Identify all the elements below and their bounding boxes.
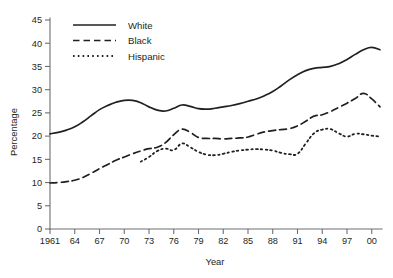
- chart-axes: [45, 18, 382, 234]
- y-tick-label: 20: [32, 131, 42, 141]
- y-tick-label: 10: [32, 178, 42, 188]
- y-axis-title: Percentage: [8, 108, 19, 156]
- x-tick-label: 82: [218, 236, 228, 246]
- y-axis-tick-labels: 051015202530354045: [32, 15, 42, 234]
- x-tick-label: 70: [119, 236, 129, 246]
- y-tick-label: 15: [32, 155, 42, 165]
- x-tick-label: 67: [94, 236, 104, 246]
- chart-series-group: [50, 47, 380, 183]
- y-axis-ticks: [45, 20, 50, 229]
- x-axis-title: Year: [206, 256, 225, 267]
- x-tick-label: 85: [243, 236, 253, 246]
- y-tick-label: 0: [37, 224, 42, 234]
- x-tick-label: 73: [144, 236, 154, 246]
- legend-label-black: Black: [128, 35, 152, 46]
- x-tick-label: 00: [367, 236, 377, 246]
- x-tick-label: 94: [317, 236, 327, 246]
- y-tick-label: 5: [37, 201, 42, 211]
- y-tick-label: 40: [32, 39, 42, 49]
- y-tick-label: 25: [32, 108, 42, 118]
- x-tick-label: 1961: [40, 236, 60, 246]
- series-line-white: [50, 47, 380, 133]
- x-tick-label: 88: [268, 236, 278, 246]
- chart-container: 051015202530354045 196164677073767982858…: [0, 0, 393, 278]
- x-tick-label: 91: [292, 236, 302, 246]
- series-line-black: [50, 93, 380, 183]
- chart-legend: WhiteBlackHispanic: [73, 20, 165, 62]
- y-tick-label: 45: [32, 15, 42, 25]
- line-chart: 051015202530354045 196164677073767982858…: [0, 0, 393, 278]
- x-tick-label: 76: [169, 236, 179, 246]
- x-axis-tick-labels: 196164677073767982858891949700: [40, 236, 377, 246]
- x-tick-label: 97: [342, 236, 352, 246]
- y-tick-label: 35: [32, 62, 42, 72]
- x-axis-ticks: [50, 229, 372, 234]
- legend-label-white: White: [128, 20, 153, 31]
- legend-label-hispanic: Hispanic: [128, 51, 165, 62]
- x-tick-label: 79: [193, 236, 203, 246]
- y-tick-label: 30: [32, 85, 42, 95]
- x-tick-label: 64: [70, 236, 80, 246]
